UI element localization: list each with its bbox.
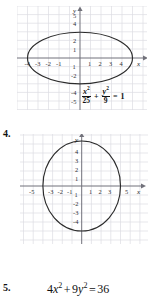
svg-text:-2: -2 (58, 188, 63, 195)
y-axis-label: y (74, 136, 79, 144)
equals-operator: = (87, 283, 97, 298)
svg-text:5: 5 (73, 12, 76, 19)
svg-text:-2: -2 (73, 200, 78, 207)
equation-rhs: 36 (97, 282, 109, 296)
svg-text:-1: -1 (56, 60, 61, 67)
fraction-term-2: y2 9 (102, 88, 110, 105)
svg-text:-2: -2 (71, 72, 76, 79)
svg-text:-3: -3 (48, 188, 53, 195)
svg-text:-3: -3 (73, 209, 78, 216)
y-axis-arrow (77, 7, 82, 12)
svg-text:2: 2 (99, 60, 102, 67)
axes (20, 135, 142, 244)
svg-text:1: 1 (73, 63, 76, 70)
svg-text:5: 5 (125, 188, 128, 195)
svg-text:-3: -3 (35, 60, 40, 67)
svg-text:1: 1 (75, 191, 78, 198)
problem-number-4: 4. (3, 128, 11, 139)
svg-text:1: 1 (73, 46, 76, 53)
equation-problem-3: x2 25 + y2 9 = 1 (81, 88, 125, 105)
grid-lines (20, 134, 148, 244)
x-axis-arrow (143, 55, 147, 60)
svg-text:4: 4 (120, 60, 124, 67)
svg-text:-5: -5 (71, 98, 76, 105)
svg-text:3: 3 (75, 157, 78, 164)
plus-operator: + (62, 283, 72, 298)
svg-text:1: 1 (75, 175, 78, 182)
problem-block-4: 4. (0, 126, 164, 278)
svg-text:-4: -4 (73, 218, 79, 225)
y-axis-arrow (79, 134, 84, 137)
equals-operator: = (112, 93, 118, 101)
svg-text:-4: -4 (25, 60, 31, 67)
svg-text:1: 1 (88, 60, 91, 67)
equation-rhs: 1 (120, 93, 125, 101)
problem-number-5: 5. (3, 282, 11, 293)
equation-problem-5: 4x2+9y2=36 (47, 282, 109, 298)
x-axis-arrow (141, 183, 146, 188)
problem-block-3: x y -4 -3 -2 -1 1 2 3 4 5 4 2 (0, 0, 164, 118)
svg-text:3: 3 (109, 60, 112, 67)
svg-text:2: 2 (99, 188, 102, 195)
svg-text:-2: -2 (46, 60, 51, 67)
svg-text:-5: -5 (29, 188, 34, 195)
svg-text:2: 2 (75, 166, 78, 173)
fraction-term-1: x2 25 (82, 88, 92, 105)
worksheet-page: x y -4 -3 -2 -1 1 2 3 4 5 4 2 (0, 0, 164, 301)
plus-operator: + (94, 93, 100, 101)
svg-text:4: 4 (75, 148, 79, 155)
svg-text:3: 3 (108, 188, 111, 195)
svg-text:1: 1 (89, 188, 92, 195)
graph-ellipse-2: x y -5 -3 -2 -1 1 2 3 5 4 3 2 1 1 (20, 134, 148, 244)
svg-text:2: 2 (73, 37, 76, 44)
problem-block-5: 5. 4x2+9y2=36 (0, 278, 164, 301)
svg-text:-1: -1 (67, 188, 72, 195)
svg-text:-4: -4 (71, 89, 77, 96)
